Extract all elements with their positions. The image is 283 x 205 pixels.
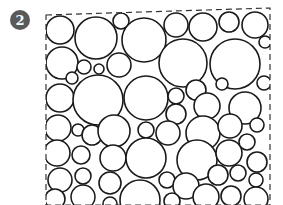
packed-circle <box>250 118 264 132</box>
packed-circle <box>208 165 228 185</box>
packed-circle <box>244 187 268 205</box>
packed-circle <box>46 84 74 112</box>
packed-circle <box>257 76 271 90</box>
packed-circle <box>218 114 242 138</box>
packed-circle <box>46 16 74 44</box>
packed-circle <box>77 60 91 74</box>
packed-circle <box>107 53 131 77</box>
packed-circles <box>44 12 271 205</box>
packed-circle <box>71 185 95 205</box>
circle-packing-diagram: 2 <box>0 0 283 205</box>
packed-circle <box>75 17 117 59</box>
packed-circle <box>189 13 217 41</box>
packed-circle <box>100 145 126 171</box>
packed-circle <box>98 115 130 147</box>
packed-circle <box>45 115 71 141</box>
packed-circle <box>247 152 267 172</box>
packed-circle <box>239 134 255 150</box>
packed-circle <box>168 88 184 104</box>
packed-circle <box>230 165 246 181</box>
badge-label: 2 <box>15 13 24 28</box>
packed-circle <box>72 146 90 164</box>
packed-circle <box>44 140 70 166</box>
packed-circle <box>124 76 168 120</box>
packed-circle <box>164 13 188 37</box>
packed-circle <box>216 140 242 166</box>
packed-circle <box>99 172 121 194</box>
packed-circle <box>66 72 78 84</box>
packed-circle <box>103 197 117 205</box>
packed-circle <box>221 186 241 205</box>
packed-circle <box>219 12 239 32</box>
packed-circle <box>120 180 160 205</box>
packed-circle <box>259 36 271 48</box>
packed-circle <box>164 193 180 205</box>
packed-circle <box>249 173 263 187</box>
packed-circle <box>159 39 207 87</box>
packed-circle <box>75 168 91 184</box>
step-number-badge: 2 <box>10 10 30 30</box>
packed-circle <box>216 78 228 90</box>
packed-circle <box>193 184 219 205</box>
packed-circle <box>94 64 104 74</box>
packed-circle <box>242 12 268 38</box>
packed-circle <box>45 189 65 205</box>
packed-circle <box>194 93 220 119</box>
packed-circle <box>48 168 72 192</box>
packed-circle <box>156 121 180 145</box>
packed-circle <box>126 138 166 178</box>
packed-circle <box>138 122 154 138</box>
